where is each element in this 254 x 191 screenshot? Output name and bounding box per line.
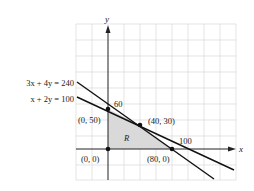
linear-programming-graph: y x 3x + 4y = 240 x + 2y = 100 60 (0, 50…	[0, 0, 254, 191]
line-3x-4y-240	[77, 82, 214, 179]
point-label-origin: (0, 0)	[81, 154, 100, 164]
tick-label-100: 100	[179, 136, 192, 146]
tick-label-60: 60	[114, 99, 123, 109]
x-axis-arrow-icon	[228, 147, 236, 152]
point-0-50	[106, 107, 111, 112]
point-label-40-30: (40, 30)	[148, 116, 175, 126]
point-label-80-0: (80, 0)	[147, 154, 170, 164]
point-origin	[106, 147, 111, 152]
point-label-0-50: (0, 50)	[78, 115, 101, 125]
equation-label-2: x + 2y = 100	[30, 94, 74, 104]
region-label: R	[123, 133, 130, 143]
y-axis-arrow-icon	[106, 25, 111, 33]
point-40-30	[138, 123, 143, 128]
point-80-0	[170, 147, 175, 152]
equation-label-1: 3x + 4y = 240	[26, 78, 74, 88]
x-axis-label: x	[238, 144, 243, 154]
y-axis-label: y	[104, 14, 109, 24]
